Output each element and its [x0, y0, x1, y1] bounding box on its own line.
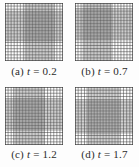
figure-mesh-sequence: (a) t = 0.2 (b) t = 0.7 (c) t = 1.2 (d) … [0, 0, 139, 167]
mesh-panel-c [5, 87, 63, 145]
caption-panel-d: (d) t = 1.7 [70, 147, 139, 162]
caption-panel-c: (c) t = 1.2 [0, 147, 68, 162]
caption-index-c: (c) [11, 148, 24, 160]
mesh-panel-a [5, 3, 63, 61]
caption-panel-a: (a) t = 0.2 [0, 64, 68, 79]
caption-var-b: t [98, 65, 101, 77]
mesh-panel-b [75, 3, 133, 61]
caption-var-c: t [27, 148, 30, 160]
caption-value-c: = 1.2 [33, 148, 57, 160]
mesh-panel-d [75, 87, 133, 145]
caption-value-b: = 0.7 [104, 65, 128, 77]
caption-value-d: = 1.7 [104, 148, 128, 160]
caption-index-a: (a) [11, 65, 24, 77]
caption-value-a: = 0.2 [33, 65, 57, 77]
caption-var-a: t [27, 65, 30, 77]
caption-index-d: (d) [81, 148, 94, 160]
caption-panel-b: (b) t = 0.7 [70, 64, 139, 79]
caption-var-d: t [98, 148, 101, 160]
caption-index-b: (b) [81, 65, 94, 77]
